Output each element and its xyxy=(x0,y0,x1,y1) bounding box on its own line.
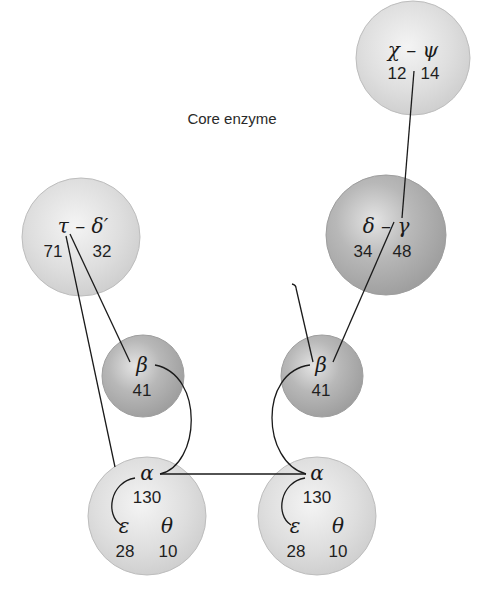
tau-deltaprime-symbols: τ – δ′ xyxy=(58,214,109,238)
psi-value: 14 xyxy=(421,64,440,83)
theta-right-symbol: θ xyxy=(332,514,344,538)
annotation-tick xyxy=(292,284,296,288)
epsilon-left-symbol: ε xyxy=(119,514,130,538)
chi-value: 12 xyxy=(388,64,407,83)
delta-gamma-symbols: δ – γ xyxy=(363,214,410,238)
alpha-left-value: 130 xyxy=(133,488,161,507)
alpha-right-value: 130 xyxy=(303,488,331,507)
theta-left-value: 10 xyxy=(159,542,178,561)
polymerase-diagram: χ – ψ 12 14 δ – γ 34 48 τ – δ′ 71 32 Cor… xyxy=(0,0,480,598)
beta-left-symbol: β xyxy=(135,353,148,377)
chi-psi-symbols: χ – ψ xyxy=(386,38,439,62)
deltaprime-value: 32 xyxy=(93,242,112,261)
epsilon-left-value: 28 xyxy=(116,542,135,561)
beta-right-value: 41 xyxy=(312,381,331,400)
alpha-right-symbol: α xyxy=(310,461,324,485)
alpha-left-symbol: α xyxy=(140,461,154,485)
delta-value: 34 xyxy=(354,242,373,261)
core-enzyme-label: Core enzyme xyxy=(187,110,276,127)
tau-value: 71 xyxy=(44,242,63,261)
beta-left-value: 41 xyxy=(133,381,152,400)
theta-right-value: 10 xyxy=(329,542,348,561)
epsilon-right-symbol: ε xyxy=(290,514,301,538)
theta-left-symbol: θ xyxy=(161,514,173,538)
beta-right-symbol: β xyxy=(314,353,327,377)
gamma-value: 48 xyxy=(393,242,412,261)
epsilon-right-value: 28 xyxy=(287,542,306,561)
